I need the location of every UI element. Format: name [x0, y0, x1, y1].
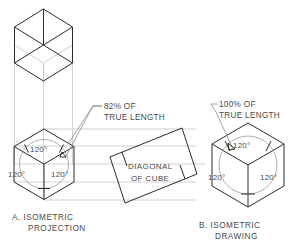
note-82-leader-line-2: [65, 106, 102, 158]
projection-angle-label-right: 120°: [51, 170, 68, 179]
caption-a: A. ISOMETRIC PROJECTION: [12, 213, 86, 233]
drawing-angle-label-top: 120°: [233, 141, 250, 150]
note-82-leader-line: [68, 106, 102, 144]
note-82-arrowhead: [60, 152, 66, 157]
projection-angle-label-top: 120°: [30, 145, 47, 154]
hidden-line-lower-vee: [15, 45, 73, 63]
diagonal-of-cube-rectangle: DIAGONAL OF CUBE: [110, 128, 197, 203]
note-82-line1: 82% OF: [104, 102, 136, 111]
diagonal-rect-tick-lower: [180, 165, 185, 179]
caption-b-line1: B. ISOMETRIC: [199, 221, 261, 230]
diagonal-label-line2: OF CUBE: [131, 174, 169, 183]
tilted-cube-lower-vee: [15, 45, 73, 63]
drawing-cube-edge-right: [248, 144, 284, 165]
tilted-cube-hidden-lines: [15, 45, 73, 81]
caption-b-line2: DRAWING: [215, 232, 258, 241]
isometric-figure: 120° 120° 120° DIAGONAL OF CUBE 82% OF T…: [0, 0, 305, 248]
projection-angle-label-left: 120°: [8, 170, 25, 179]
figure-canvas: 120° 120° 120° DIAGONAL OF CUBE 82% OF T…: [0, 0, 305, 248]
caption-a-line2: PROJECTION: [28, 224, 86, 233]
diagonal-label-line1: DIAGONAL: [128, 162, 173, 171]
caption-a-line1: A. ISOMETRIC: [12, 213, 74, 222]
note-82-line2: TRUE LENGTH: [104, 113, 165, 122]
note-100-line1: 100% OF: [219, 100, 256, 109]
isometric-drawing-cube: 120° 120° 120°: [208, 123, 284, 207]
drawing-angle-label-right: 120°: [260, 173, 277, 182]
caption-b: B. ISOMETRIC DRAWING: [199, 221, 261, 241]
note-100-line2: TRUE LENGTH: [219, 111, 280, 120]
tilted-cube-top: [15, 9, 73, 81]
note-82-percent-group: 82% OF TRUE LENGTH: [60, 102, 165, 158]
drawing-angle-label-left: 120°: [208, 173, 225, 182]
